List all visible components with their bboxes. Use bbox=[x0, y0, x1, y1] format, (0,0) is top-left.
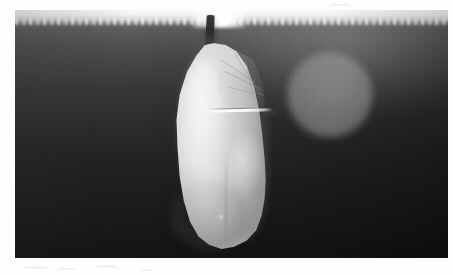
paper-speck bbox=[58, 268, 76, 270]
photo-page: Black and white photograph of a pale chr… bbox=[0, 0, 453, 275]
vignette bbox=[15, 10, 448, 258]
paper-speck bbox=[96, 265, 118, 268]
paper-speck bbox=[140, 269, 154, 271]
photograph bbox=[15, 10, 448, 258]
paper-speck bbox=[330, 4, 350, 6]
paper-speck bbox=[22, 266, 48, 269]
